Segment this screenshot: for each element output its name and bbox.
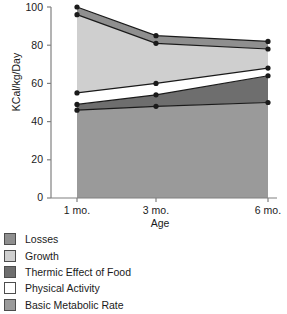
legend-swatch-physical-activity — [4, 282, 16, 294]
marker-growth-6mo — [265, 46, 270, 51]
legend-item-growth: Growth — [4, 247, 287, 263]
marker-growth-3mo — [153, 41, 158, 46]
legend-item-basic-metabolic-rate: Basic Metabolic Rate — [4, 297, 287, 313]
legend-swatch-thermic-effect-of-food — [4, 266, 16, 278]
legend-swatch-basic-metabolic-rate — [4, 299, 16, 311]
legend-swatch-losses — [4, 233, 16, 245]
stacked-areas — [77, 7, 268, 198]
plot-area: KCal/kg/Day 100 80 60 40 20 0 1 mo. 3 mo… — [0, 0, 287, 232]
y-tick-20: 20 — [17, 153, 43, 165]
marker-losses-3mo — [153, 33, 158, 38]
marker-basic-metabolic-rate-6mo — [265, 100, 270, 105]
x-axis-label: Age — [120, 217, 200, 229]
marker-physical-activity-1mo — [74, 90, 79, 95]
legend-item-losses: Losses — [4, 231, 287, 247]
legend-swatch-growth — [4, 250, 16, 262]
marker-losses-6mo — [265, 39, 270, 44]
marker-thermic-effect-of-food-1mo — [74, 102, 79, 107]
x-tick-1mo: 1 mo. — [52, 204, 102, 216]
chart-legend: Losses Growth Thermic Effect of Food Phy… — [4, 231, 287, 313]
x-tick-6mo: 6 mo. — [243, 204, 287, 216]
y-tick-100: 100 — [17, 1, 43, 13]
marker-physical-activity-6mo — [265, 66, 270, 71]
marker-thermic-effect-of-food-6mo — [265, 73, 270, 78]
y-tick-80: 80 — [17, 39, 43, 51]
legend-item-thermic-effect-of-food: Thermic Effect of Food — [4, 264, 287, 280]
legend-label-losses: Losses — [25, 233, 58, 245]
marker-growth-1mo — [74, 12, 79, 17]
legend-label-physical-activity: Physical Activity — [25, 282, 100, 294]
legend-item-physical-activity: Physical Activity — [4, 280, 287, 296]
legend-label-basic-metabolic-rate: Basic Metabolic Rate — [25, 299, 124, 311]
y-tick-0: 0 — [17, 191, 43, 203]
y-tick-40: 40 — [17, 115, 43, 127]
legend-label-thermic-effect-of-food: Thermic Effect of Food — [25, 266, 131, 278]
marker-thermic-effect-of-food-3mo — [153, 92, 158, 97]
marker-physical-activity-3mo — [153, 81, 158, 86]
y-tick-60: 60 — [17, 77, 43, 89]
legend-label-growth: Growth — [25, 250, 59, 262]
marker-losses-1mo — [74, 4, 79, 9]
area-basic-metabolic-rate — [77, 103, 268, 199]
marker-basic-metabolic-rate-1mo — [74, 108, 79, 113]
chart-svg — [0, 0, 287, 232]
marker-basic-metabolic-rate-3mo — [153, 104, 158, 109]
energy-expenditure-chart: KCal/kg/Day 100 80 60 40 20 0 1 mo. 3 mo… — [0, 0, 287, 314]
x-tick-3mo: 3 mo. — [131, 204, 181, 216]
